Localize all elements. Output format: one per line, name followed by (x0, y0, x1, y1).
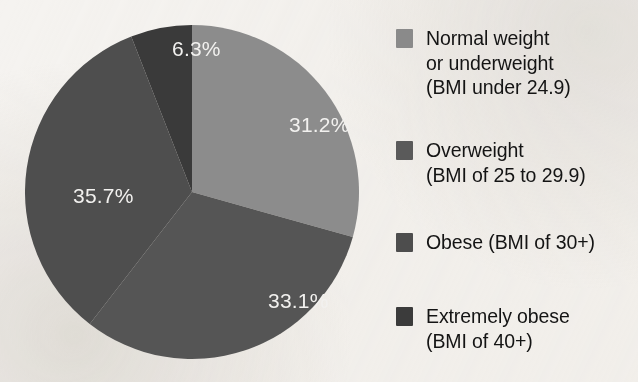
pie-slice-label-1: 31.2% (289, 113, 350, 136)
legend-label-normal-weight: Normal weight or underweight (BMI under … (426, 26, 571, 100)
pie-svg: 31.2%33.1%35.7%6.3% (25, 18, 359, 366)
pie-slice-label-4: 6.3% (172, 37, 221, 60)
pie-slice-label-3: 35.7% (73, 184, 134, 207)
legend-item-normal-weight[interactable]: Normal weight or underweight (BMI under … (396, 26, 571, 100)
legend-swatch-icon-extremely-obese (396, 307, 413, 326)
pie-chart-figure: 31.2%33.1%35.7%6.3% Normal weight or und… (0, 0, 638, 382)
pie-chart-graphic: 31.2%33.1%35.7%6.3% (25, 18, 359, 366)
pie-slice-label-2: 33.1% (268, 289, 329, 312)
legend-label-obese: Obese (BMI of 30+) (426, 230, 595, 255)
legend-item-obese[interactable]: Obese (BMI of 30+) (396, 230, 595, 255)
legend-swatch-icon-overweight (396, 141, 413, 160)
chart-legend: Normal weight or underweight (BMI under … (396, 22, 634, 366)
legend-item-extremely-obese[interactable]: Extremely obese (BMI of 40+) (396, 304, 570, 353)
legend-swatch-icon-obese (396, 233, 413, 252)
legend-label-extremely-obese: Extremely obese (BMI of 40+) (426, 304, 570, 353)
legend-swatch-icon-normal-weight (396, 29, 413, 48)
legend-label-overweight: Overweight (BMI of 25 to 29.9) (426, 138, 586, 187)
legend-item-overweight[interactable]: Overweight (BMI of 25 to 29.9) (396, 138, 586, 187)
